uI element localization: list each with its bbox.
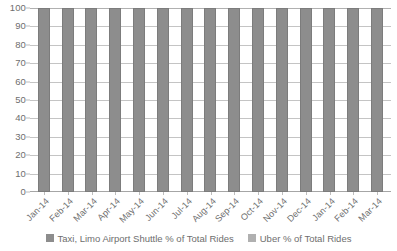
y-axis-tick-label: 0 xyxy=(0,187,26,197)
y-axis-tick-label: 40 xyxy=(0,113,26,123)
x-axis-tick-label: May-14 xyxy=(117,196,146,225)
bar-stack[interactable] xyxy=(204,8,216,192)
legend-swatch-icon-uber xyxy=(248,234,256,242)
y-axis-tick-label: 100 xyxy=(0,3,26,13)
bar-stack[interactable] xyxy=(157,8,169,192)
chart-legend: Taxi, Limo Airport Shuttle % of Total Ri… xyxy=(0,230,397,246)
x-axis-tick-label: Nov-14 xyxy=(261,196,289,224)
bar-segment xyxy=(276,8,288,192)
bar-slot xyxy=(80,8,104,192)
x-axis-tick-label: Feb-14 xyxy=(333,196,361,224)
x-axis: Jan-14Feb-14Mar-14Apr-14May-14Jun-14Jul-… xyxy=(30,192,391,232)
y-axis: 0102030405060708090100 xyxy=(0,8,26,192)
bar-segment xyxy=(252,8,264,192)
x-axis-tick-mark xyxy=(377,192,378,195)
x-axis-tick-label: Mar-14 xyxy=(357,196,385,224)
bar-slot xyxy=(294,8,318,192)
x-axis-tick-mark xyxy=(139,192,140,195)
x-axis-tick-label: Jan-14 xyxy=(310,196,337,223)
x-axis-tick-mark xyxy=(115,192,116,195)
x-axis-tick-label: Sep-14 xyxy=(213,196,241,224)
bar-slot xyxy=(32,8,56,192)
x-axis-tick-mark xyxy=(234,192,235,195)
bar-stack[interactable] xyxy=(371,8,383,192)
legend-label-uber: Uber % of Total Rides xyxy=(260,233,352,244)
bar-segment xyxy=(347,8,359,192)
bar-stack[interactable] xyxy=(252,8,264,192)
bar-segment xyxy=(62,8,74,192)
x-axis-tick-mark xyxy=(282,192,283,195)
bar-segment xyxy=(204,8,216,192)
bar-segment xyxy=(300,8,312,192)
bar-stack[interactable] xyxy=(228,8,240,192)
bar-stack[interactable] xyxy=(276,8,288,192)
bar-segment xyxy=(85,8,97,192)
x-axis-tick-label: Jun-14 xyxy=(143,196,170,223)
bar-slot xyxy=(365,8,389,192)
y-axis-tick-label: 10 xyxy=(0,169,26,179)
x-axis-tick-label: Jan-14 xyxy=(24,196,51,223)
bar-segment xyxy=(133,8,145,192)
bar-slot xyxy=(222,8,246,192)
x-axis-tick-mark xyxy=(187,192,188,195)
x-axis-tick-mark xyxy=(330,192,331,195)
bar-segment xyxy=(371,8,383,192)
x-axis-tick-mark xyxy=(258,192,259,195)
x-axis-tick-label: Dec-14 xyxy=(285,196,313,224)
bar-stack[interactable] xyxy=(133,8,145,192)
x-axis-tick-label: Mar-14 xyxy=(71,196,99,224)
bar-stack[interactable] xyxy=(347,8,359,192)
bar-segment xyxy=(109,8,121,192)
bar-slot xyxy=(270,8,294,192)
bar-stack[interactable] xyxy=(85,8,97,192)
y-axis-tick-label: 30 xyxy=(0,132,26,142)
legend-item-uber[interactable]: Uber % of Total Rides xyxy=(248,233,352,244)
bar-segment xyxy=(38,8,50,192)
x-axis-tick-mark xyxy=(211,192,212,195)
bar-segment xyxy=(228,8,240,192)
bar-slot xyxy=(175,8,199,192)
bar-stack[interactable] xyxy=(109,8,121,192)
bar-segment xyxy=(157,8,169,192)
legend-swatch-icon-taxi xyxy=(46,234,54,242)
bar-segment xyxy=(323,8,335,192)
x-axis-tick-label: Oct-14 xyxy=(239,196,266,223)
bar-slot xyxy=(341,8,365,192)
bar-slot xyxy=(246,8,270,192)
plot-area xyxy=(30,8,391,192)
bar-stack[interactable] xyxy=(62,8,74,192)
x-axis-tick-mark xyxy=(44,192,45,195)
bars-layer xyxy=(30,8,391,192)
x-axis-tick-mark xyxy=(353,192,354,195)
x-axis-tick-label: Aug-14 xyxy=(190,196,218,224)
bar-stack[interactable] xyxy=(38,8,50,192)
y-axis-tick-label: 80 xyxy=(0,40,26,50)
bar-slot xyxy=(127,8,151,192)
bar-slot xyxy=(151,8,175,192)
y-axis-tick-label: 50 xyxy=(0,95,26,105)
legend-label-taxi: Taxi, Limo Airport Shuttle % of Total Ri… xyxy=(58,233,234,244)
x-axis-tick-mark xyxy=(92,192,93,195)
x-axis-tick-mark xyxy=(68,192,69,195)
bar-slot xyxy=(318,8,342,192)
x-axis-tick-mark xyxy=(306,192,307,195)
bar-stack[interactable] xyxy=(300,8,312,192)
bar-stack[interactable] xyxy=(181,8,193,192)
bar-stack[interactable] xyxy=(323,8,335,192)
legend-item-taxi[interactable]: Taxi, Limo Airport Shuttle % of Total Ri… xyxy=(46,233,234,244)
x-axis-tick-mark xyxy=(163,192,164,195)
bar-slot xyxy=(199,8,223,192)
y-axis-tick-label: 70 xyxy=(0,58,26,68)
bar-slot xyxy=(103,8,127,192)
x-axis-tick-label: Feb-14 xyxy=(47,196,75,224)
stacked-bar-chart: 0102030405060708090100 Jan-14Feb-14Mar-1… xyxy=(0,0,397,251)
bar-slot xyxy=(56,8,80,192)
y-axis-tick-label: 90 xyxy=(0,21,26,31)
y-axis-tick-label: 20 xyxy=(0,150,26,160)
bar-segment xyxy=(181,8,193,192)
y-axis-tick-label: 60 xyxy=(0,77,26,87)
